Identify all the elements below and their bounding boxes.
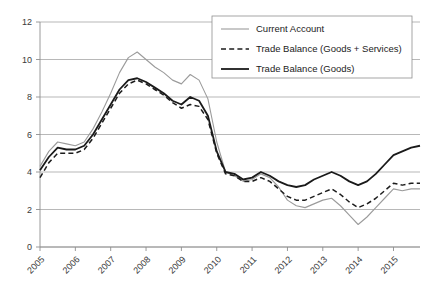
- legend-label-2: Trade Balance (Goods): [256, 63, 354, 74]
- x-axis-tick-labels: 2005200620072008200920102011201220132014…: [25, 247, 400, 276]
- y-tick-label: 8: [27, 92, 32, 102]
- line-chart: 024681012 200520062007200820092010201120…: [0, 0, 432, 283]
- x-tick-label: 2005: [25, 254, 46, 275]
- legend-label-1: Trade Balance (Goods + Services): [256, 43, 402, 54]
- x-tick-label: 2007: [96, 254, 117, 275]
- x-tick-label: 2008: [131, 254, 152, 275]
- x-tick-label: 2009: [167, 254, 188, 275]
- y-tick-label: 2: [27, 205, 32, 215]
- series-line-1: [40, 80, 420, 208]
- x-tick-label: 2011: [238, 254, 259, 275]
- y-tick-label: 6: [27, 130, 32, 140]
- y-tick-label: 0: [27, 242, 32, 252]
- y-tick-label: 10: [22, 55, 32, 65]
- y-tick-label: 12: [22, 17, 32, 27]
- y-tick-label: 4: [27, 167, 32, 177]
- legend-label-0: Current Account: [256, 23, 324, 34]
- chart-container: 024681012 200520062007200820092010201120…: [0, 0, 432, 283]
- x-tick-label: 2014: [343, 254, 364, 275]
- chart-legend: Current AccountTrade Balance (Goods + Se…: [212, 16, 412, 78]
- x-tick-label: 2015: [379, 254, 400, 275]
- x-tick-label: 2013: [308, 254, 329, 275]
- y-axis-tick-labels: 024681012: [22, 17, 40, 252]
- x-tick-label: 2006: [61, 254, 82, 275]
- x-tick-label: 2010: [202, 254, 223, 275]
- x-tick-label: 2012: [273, 254, 294, 275]
